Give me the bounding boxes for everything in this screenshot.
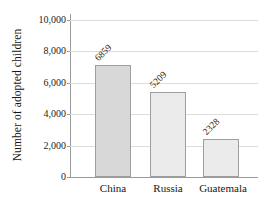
bar-guatemala bbox=[203, 139, 239, 177]
gridline bbox=[70, 20, 258, 21]
bar-chart-figure: Number of adopted children 10,000 8,000 … bbox=[0, 0, 269, 205]
y-tick-mark bbox=[67, 83, 70, 84]
bar-value-label-china: 6859 bbox=[93, 42, 114, 63]
bar-russia bbox=[150, 92, 186, 177]
y-tick-label: 2,000 bbox=[22, 141, 66, 151]
y-tick-mark bbox=[67, 146, 70, 147]
y-axis-line bbox=[70, 14, 71, 178]
y-tick-mark bbox=[67, 20, 70, 21]
bar-value-label-russia: 5209 bbox=[148, 69, 169, 90]
y-tick-label: 6,000 bbox=[22, 78, 66, 88]
bar-value-label-guatemala: 2328 bbox=[201, 116, 222, 137]
x-axis-line bbox=[70, 177, 258, 178]
y-tick-label: 8,000 bbox=[22, 46, 66, 56]
y-tick-label: 0 bbox=[22, 172, 66, 182]
y-tick-label: 10,000 bbox=[22, 15, 66, 25]
x-tick-label-guatemala: Guatemala bbox=[189, 182, 257, 195]
y-axis-tick-labels: 10,000 8,000 6,000 4,000 2,000 0 bbox=[20, 0, 66, 205]
y-tick-mark bbox=[67, 177, 70, 178]
x-tick-label-china: China bbox=[83, 182, 143, 195]
bar-china bbox=[95, 65, 131, 177]
x-axis-tick-labels: China Russia Guatemala bbox=[70, 182, 258, 198]
y-tick-mark bbox=[67, 114, 70, 115]
y-tick-mark bbox=[67, 51, 70, 52]
y-tick-label: 4,000 bbox=[22, 109, 66, 119]
plot-area: 6859 5209 2328 bbox=[70, 14, 258, 178]
